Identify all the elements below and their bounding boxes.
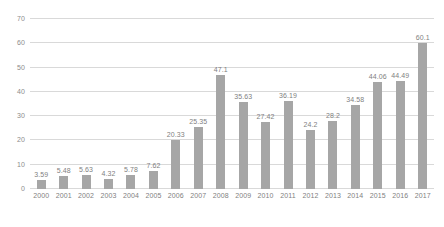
bar-slot: 47.1 (210, 19, 232, 189)
bar (261, 122, 270, 189)
bar-slot: 4.32 (97, 19, 119, 189)
bar-slot: 3.59 (30, 19, 52, 189)
bar-value-label: 20.33 (167, 131, 185, 138)
bar-value-label: 27.42 (257, 113, 275, 120)
x-axis-tick-label: 2003 (97, 192, 119, 206)
bar (284, 101, 293, 189)
bar (149, 171, 158, 190)
bar-value-label: 5.78 (124, 166, 138, 173)
y-axis-tick-label: 10 (17, 160, 25, 167)
y-axis-tick-label: 70 (17, 15, 25, 22)
bar-value-label: 5.48 (57, 167, 71, 174)
bar (216, 75, 225, 189)
y-axis-tick-label: 60 (17, 39, 25, 46)
x-axis-tick-label: 2016 (389, 192, 411, 206)
bar-slot: 44.06 (367, 19, 389, 189)
bar-slot: 36.19 (277, 19, 299, 189)
bar-slot: 25.35 (187, 19, 209, 189)
bar (104, 179, 113, 189)
bar-value-label: 44.49 (391, 72, 409, 79)
y-axis-tick-label: 50 (17, 63, 25, 70)
bar (306, 130, 315, 189)
x-axis-tick-label: 2006 (165, 192, 187, 206)
bar-slot: 34.58 (344, 19, 366, 189)
bar (351, 105, 360, 189)
x-axis-tick-labels: 2000200120022003200420052006200720082009… (30, 192, 434, 206)
bar-value-label: 34.58 (346, 96, 364, 103)
plot-area: 010203040506070 3.595.485.634.325.787.62… (30, 19, 434, 189)
bar (396, 81, 405, 189)
bar-slot: 35.63 (232, 19, 254, 189)
bar (171, 140, 180, 189)
bars-layer: 3.595.485.634.325.787.6220.3325.3547.135… (30, 19, 434, 189)
bar-value-label: 35.63 (234, 93, 252, 100)
bar-slot: 60.1 (411, 19, 433, 189)
bar-slot: 28.2 (322, 19, 344, 189)
y-axis-tick-label: 0 (21, 185, 25, 192)
bar-chart: 010203040506070 3.595.485.634.325.787.62… (0, 0, 444, 227)
bar-slot: 5.48 (52, 19, 74, 189)
bar-value-label: 5.63 (79, 166, 93, 173)
x-axis-tick-label: 2011 (277, 192, 299, 206)
bar (59, 176, 68, 189)
y-axis-tick-label: 30 (17, 112, 25, 119)
bar-value-label: 60.1 (416, 34, 430, 41)
x-axis-tick-label: 2004 (120, 192, 142, 206)
bar-slot: 24.2 (299, 19, 321, 189)
x-axis-tick-label: 2005 (142, 192, 164, 206)
x-axis-tick-label: 2001 (52, 192, 74, 206)
x-axis-tick-label: 2008 (210, 192, 232, 206)
bar-slot: 44.49 (389, 19, 411, 189)
y-axis-tick-label: 20 (17, 136, 25, 143)
bar (373, 82, 382, 189)
bar-value-label: 44.06 (369, 73, 387, 80)
x-axis-tick-label: 2010 (254, 192, 276, 206)
x-axis-tick-label: 2015 (367, 192, 389, 206)
bar (328, 121, 337, 189)
x-axis-tick-label: 2014 (344, 192, 366, 206)
bar-slot: 20.33 (165, 19, 187, 189)
x-axis-tick-label: 2017 (411, 192, 433, 206)
x-axis-tick-label: 2012 (299, 192, 321, 206)
x-axis-tick-label: 2007 (187, 192, 209, 206)
bar-value-label: 24.2 (303, 121, 317, 128)
x-axis-tick-label: 2009 (232, 192, 254, 206)
bar-value-label: 3.59 (34, 171, 48, 178)
bar (418, 43, 427, 189)
x-axis-tick-label: 2000 (30, 192, 52, 206)
x-axis-tick-label: 2002 (75, 192, 97, 206)
bar-slot: 7.62 (142, 19, 164, 189)
bar-slot: 5.63 (75, 19, 97, 189)
bar-value-label: 36.19 (279, 92, 297, 99)
bar (37, 180, 46, 189)
bar (126, 175, 135, 189)
bar-value-label: 47.1 (214, 66, 228, 73)
bar-value-label: 4.32 (102, 170, 116, 177)
bar-value-label: 25.35 (189, 118, 207, 125)
bar-slot: 27.42 (254, 19, 276, 189)
bar-value-label: 28.2 (326, 112, 340, 119)
bar (194, 127, 203, 189)
bar-value-label: 7.62 (146, 162, 160, 169)
y-axis-tick-label: 40 (17, 87, 25, 94)
bar (82, 175, 91, 189)
bar-slot: 5.78 (120, 19, 142, 189)
x-axis-tick-label: 2013 (322, 192, 344, 206)
bar (239, 102, 248, 189)
